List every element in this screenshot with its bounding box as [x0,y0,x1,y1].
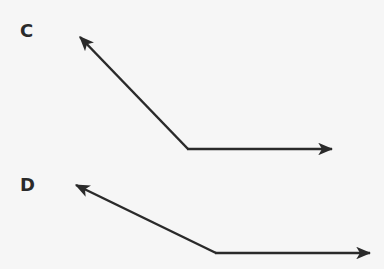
ray-d-1 [76,185,216,253]
angle-d [76,185,370,253]
ray-c-1 [80,37,188,149]
angle-c [80,37,332,149]
angle-diagram [0,0,384,269]
